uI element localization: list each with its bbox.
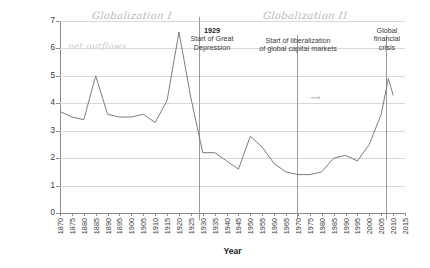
x-tick-label-1965: 1965: [282, 218, 291, 234]
x-tick-1955: [262, 213, 263, 216]
x-tick-label-1945: 1945: [234, 218, 243, 234]
x-axis-title: Year: [60, 246, 405, 256]
x-tick-label-1925: 1925: [187, 218, 196, 234]
x-tick-1930: [203, 213, 204, 216]
x-tick-label-1915: 1915: [163, 218, 172, 234]
y-tick-label-1: 1: [44, 182, 55, 190]
x-tick-1985: [334, 213, 335, 216]
x-tick-2000: [369, 213, 370, 216]
x-tick-label-1885: 1885: [92, 218, 101, 234]
x-tick-2015: [405, 213, 406, 216]
x-tick-label-1880: 1880: [80, 218, 89, 234]
x-tick-label-1875: 1875: [68, 218, 77, 234]
y-tick-label-2: 2: [44, 154, 55, 162]
x-tick-1950: [250, 213, 251, 216]
x-tick-1980: [322, 213, 323, 216]
x-axis-line: [60, 213, 405, 214]
x-tick-2010: [393, 213, 394, 216]
x-tick-1960: [274, 213, 275, 216]
x-tick-1920: [179, 213, 180, 216]
x-tick-1915: [167, 213, 168, 216]
x-tick-label-1985: 1985: [330, 218, 339, 234]
y-tick-label-6: 6: [44, 44, 55, 52]
x-tick-label-1930: 1930: [199, 218, 208, 234]
x-tick-1925: [191, 213, 192, 216]
annotation-globalization-1: Globalization I: [91, 10, 172, 21]
x-tick-label-2000: 2000: [365, 218, 374, 234]
y-tick-label-5: 5: [44, 72, 55, 80]
x-tick-label-2005: 2005: [377, 218, 386, 234]
x-tick-label-1980: 1980: [318, 218, 327, 234]
x-tick-label-1990: 1990: [342, 218, 351, 234]
x-tick-1945: [238, 213, 239, 216]
x-tick-label-1900: 1900: [127, 218, 136, 234]
x-tick-1880: [84, 213, 85, 216]
x-tick-label-2010: 2010: [389, 218, 398, 234]
x-tick-label-1910: 1910: [151, 218, 160, 234]
x-tick-1940: [227, 213, 228, 216]
x-tick-1900: [131, 213, 132, 216]
x-tick-1995: [357, 213, 358, 216]
x-tick-1905: [143, 213, 144, 216]
x-tick-1965: [286, 213, 287, 216]
chart-figure: Average absolute current account balance…: [0, 0, 430, 268]
x-tick-label-1870: 1870: [56, 218, 65, 234]
x-tick-1975: [310, 213, 311, 216]
x-tick-1970: [298, 213, 299, 216]
x-tick-label-1950: 1950: [246, 218, 255, 234]
x-tick-label-1955: 1955: [258, 218, 267, 234]
x-tick-1910: [155, 213, 156, 216]
y-tick-label-7: 7: [44, 17, 55, 25]
x-tick-label-1895: 1895: [115, 218, 124, 234]
x-tick-label-2015: 2015: [401, 218, 410, 234]
y-tick-label-4: 4: [44, 99, 55, 107]
x-tick-1895: [119, 213, 120, 216]
y-tick-label-0: 0: [44, 209, 55, 217]
x-tick-2005: [381, 213, 382, 216]
x-tick-label-1995: 1995: [353, 218, 362, 234]
x-tick-1990: [346, 213, 347, 216]
plot-area: 01234567 1870187518801885189018951900190…: [60, 21, 405, 213]
x-tick-label-1940: 1940: [223, 218, 232, 234]
x-tick-label-1970: 1970: [294, 218, 303, 234]
x-tick-label-1920: 1920: [175, 218, 184, 234]
x-tick-label-1935: 1935: [211, 218, 220, 234]
annotation-globalization-2: Globalization II: [262, 10, 348, 21]
x-tick-1875: [72, 213, 73, 216]
x-tick-label-1905: 1905: [139, 218, 148, 234]
x-tick-label-1890: 1890: [104, 218, 113, 234]
x-tick-1890: [108, 213, 109, 216]
x-tick-1870: [60, 213, 61, 216]
x-tick-1885: [96, 213, 97, 216]
x-tick-label-1975: 1975: [306, 218, 315, 234]
x-tick-label-1960: 1960: [270, 218, 279, 234]
x-tick-1935: [215, 213, 216, 216]
series-polyline: [60, 32, 393, 175]
y-tick-label-3: 3: [44, 127, 55, 135]
data-series-current-account-balances: [60, 21, 405, 213]
